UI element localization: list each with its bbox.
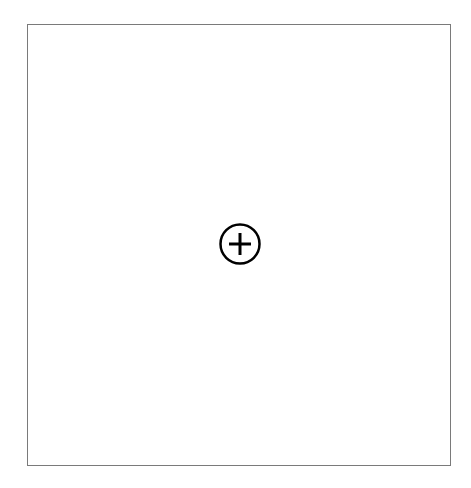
drop-area-frame[interactable]: Add [27,24,451,466]
add-button[interactable]: Add [218,222,262,266]
plus-circle-icon [218,222,262,266]
